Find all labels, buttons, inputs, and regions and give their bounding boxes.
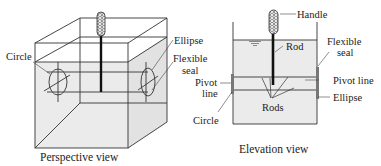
label-flexible-seal-2: seal [182, 65, 198, 76]
label-rods: Rods [262, 102, 284, 113]
label-circle: Circle [193, 115, 219, 126]
water-front-face [35, 62, 128, 148]
elevation-view: Handle Rod Rods Flexible seal Pivot line… [193, 9, 374, 155]
label-pivot-line-left-1: Pivot [195, 77, 217, 88]
label-pivot-line-left-2: line [202, 88, 218, 99]
label-handle: Handle [297, 9, 328, 20]
label-rod: Rod [286, 41, 304, 52]
label-flexible-seal-1: Flexible [173, 53, 208, 64]
handle [269, 10, 278, 34]
label-flexible-seal-2: seal [337, 47, 353, 58]
label-flexible-seal-1: Flexible [327, 36, 362, 47]
caption-perspective-view: Perspective view [40, 151, 119, 164]
circle-seal-left [231, 74, 234, 94]
label-ellipse: Ellipse [174, 35, 204, 46]
label-ellipse: Ellipse [333, 92, 363, 103]
caption-elevation-view: Elevation view [239, 143, 309, 155]
label-circle: Circle [6, 51, 32, 62]
label-pivot-line-right: Pivot line [333, 75, 374, 86]
perspective-view: Circle Ellipse Flexible seal Perspective… [6, 12, 208, 164]
ellipse-seal-right [316, 67, 319, 99]
handle [97, 12, 105, 36]
